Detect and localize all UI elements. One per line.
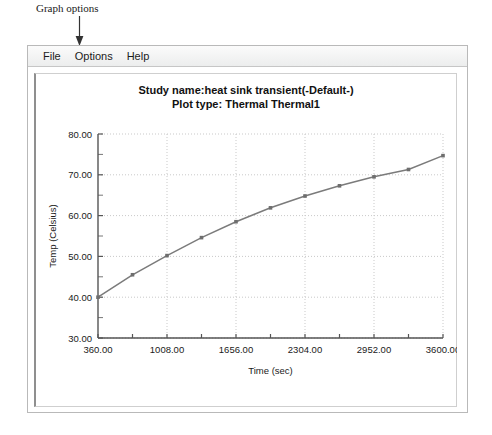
series-line-thermal1 [98,156,443,298]
svg-text:60.00: 60.00 [68,210,92,221]
chart-title: Study name:heat sink transient(-Default-… [36,83,456,97]
svg-text:1656.00: 1656.00 [219,344,253,355]
menu-item-help[interactable]: Help [120,46,157,66]
svg-text:40.00: 40.00 [68,292,92,303]
menu-item-options[interactable]: Options [68,46,120,66]
line-chart[interactable]: 360.001008.001656.002304.002952.003600.0… [36,126,457,404]
chart-panel: Study name:heat sink transient(-Default-… [34,73,457,407]
y-axis-title: Temp (Celsius) [47,204,58,267]
y-minor-ticks [98,154,103,317]
x-axis-title: Time (sec) [248,365,293,376]
down-arrow-icon [74,16,85,46]
annotation-label: Graph options [36,2,99,14]
svg-text:70.00: 70.00 [68,169,92,180]
svg-text:1008.00: 1008.00 [150,344,184,355]
svg-text:30.00: 30.00 [68,333,92,344]
plot-area: 360.001008.001656.002304.002952.003600.0… [36,126,457,404]
svg-text:50.00: 50.00 [68,251,92,262]
y-tick-labels: 30.0040.0050.0060.0070.0080.00 [68,129,92,344]
x-tick-labels: 360.001008.001656.002304.002952.003600.0… [83,344,457,355]
tick-marks [98,134,443,338]
series-markers [96,154,445,299]
chart-subtitle: Plot type: Thermal Thermal1 [36,97,456,111]
grid-lines [98,134,443,338]
svg-text:360.00: 360.00 [83,344,112,355]
menu-bar: File Options Help [28,46,467,67]
menu-item-file[interactable]: File [36,46,68,66]
svg-text:80.00: 80.00 [68,129,92,140]
graph-window: File Options Help Study name:heat sink t… [27,45,468,413]
svg-text:3600.00: 3600.00 [426,344,457,355]
svg-text:2952.00: 2952.00 [357,344,391,355]
svg-text:2304.00: 2304.00 [288,344,322,355]
chart-title-block: Study name:heat sink transient(-Default-… [36,74,456,111]
